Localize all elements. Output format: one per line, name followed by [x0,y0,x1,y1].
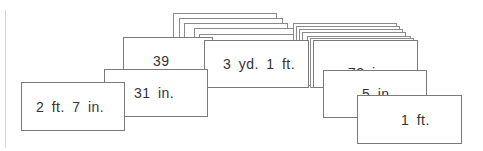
card-label: 31 in. [134,85,174,101]
card-label: 3 yd. 1 ft. [223,56,295,72]
card-label: 39 [153,53,170,69]
card-label: 1 ft. [401,112,430,128]
card-2ft7in[interactable]: 2 ft. 7 in. [21,82,125,131]
left-divider-line [5,10,6,148]
card-1ft[interactable]: 1 ft. [357,95,462,144]
card-3yd1ft[interactable]: 3 yd. 1 ft. [204,40,309,88]
card-label: 2 ft. 7 in. [36,99,104,115]
